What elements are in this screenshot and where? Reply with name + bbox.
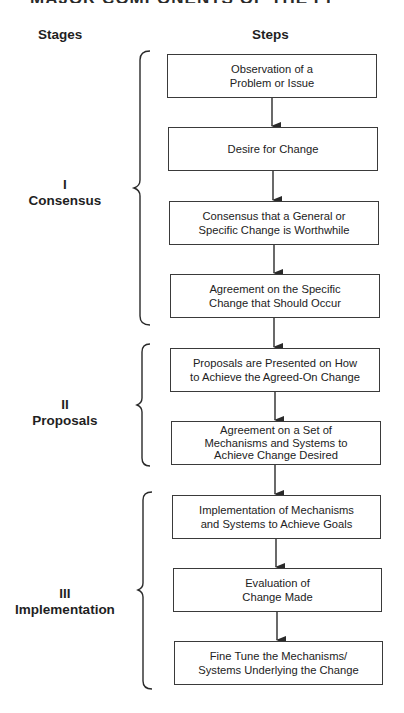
brace-implementation xyxy=(138,492,152,689)
step-box-consensus: Consensus that a General or Specific Cha… xyxy=(169,201,379,245)
stage-name: Proposals xyxy=(20,413,110,429)
step-box-fine-tune: Fine Tune the Mechanisms/ Systems Underl… xyxy=(174,641,383,685)
diagram-title: MAJOR COMPONENTS OF THE PROCESS xyxy=(30,0,330,3)
step-box-desire: Desire for Change xyxy=(168,127,378,171)
step-box-evaluation: Evaluation of Change Made xyxy=(173,568,382,612)
brace-consensus xyxy=(134,51,150,325)
step-box-agreement-specific: Agreement on the Specific Change that Sh… xyxy=(170,274,380,318)
step-text: Agreement on the Specific Change that Sh… xyxy=(209,282,341,310)
stage-name: Consensus xyxy=(20,193,110,209)
step-text: Consensus that a General or Specific Cha… xyxy=(199,209,350,237)
step-box-observation: Observation of a Problem or Issue xyxy=(167,54,377,98)
step-text: Evaluation of Change Made xyxy=(242,576,312,604)
stage-numeral: III xyxy=(10,586,120,602)
steps-header: Steps xyxy=(252,27,289,42)
stage-numeral: I xyxy=(20,177,110,193)
step-text: Desire for Change xyxy=(228,142,319,156)
step-text: Proposals are Presented on How to Achiev… xyxy=(190,356,360,384)
stage-proposals: II Proposals xyxy=(20,397,110,429)
step-box-proposals: Proposals are Presented on How to Achiev… xyxy=(170,348,380,392)
stages-header: Stages xyxy=(38,27,82,42)
stage-numeral: II xyxy=(20,397,110,413)
stage-implementation: III Implementation xyxy=(10,586,120,618)
step-text: Implementation of Mechanisms and Systems… xyxy=(199,503,354,531)
step-box-agreement-mechanisms: Agreement on a Set of Mechanisms and Sys… xyxy=(171,421,381,465)
brace-proposals xyxy=(137,344,150,466)
stage-consensus: I Consensus xyxy=(20,177,110,209)
step-text: Fine Tune the Mechanisms/ Systems Underl… xyxy=(198,649,358,677)
stage-name: Implementation xyxy=(10,602,120,618)
step-box-implementation: Implementation of Mechanisms and Systems… xyxy=(172,495,381,539)
step-text: Observation of a Problem or Issue xyxy=(230,62,315,90)
step-text: Agreement on a Set of Mechanisms and Sys… xyxy=(204,424,347,462)
